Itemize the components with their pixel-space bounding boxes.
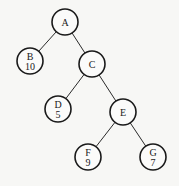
- tree-edges: [39, 32, 146, 147]
- node-weight: 9: [86, 157, 91, 168]
- edge-a-c: [72, 33, 85, 53]
- edge-e-f: [96, 122, 115, 146]
- node-c: C: [79, 51, 105, 77]
- node-g: G7: [140, 144, 166, 170]
- edge-c-d: [66, 74, 84, 98]
- node-e: E: [110, 99, 136, 125]
- edge-e-g: [130, 123, 146, 146]
- edge-c-e: [99, 75, 116, 101]
- node-label: E: [120, 107, 126, 118]
- edge-a-b: [39, 32, 57, 52]
- node-f: F9: [75, 144, 101, 170]
- node-label: C: [89, 59, 96, 70]
- node-weight: 5: [56, 109, 61, 120]
- tree-diagram: AB10CD5EF9G7: [0, 0, 179, 186]
- tree-nodes: AB10CD5EF9G7: [17, 9, 166, 170]
- node-label: A: [61, 17, 69, 28]
- node-b: B10: [17, 48, 43, 74]
- node-d: D5: [45, 96, 71, 122]
- node-a: A: [52, 9, 78, 35]
- node-weight: 10: [25, 61, 35, 72]
- node-weight: 7: [151, 157, 156, 168]
